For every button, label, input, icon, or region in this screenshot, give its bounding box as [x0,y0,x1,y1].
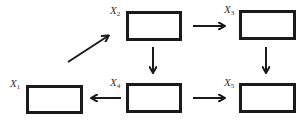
label-main: X [10,77,17,89]
label-main: X [224,76,231,88]
label-sub: 3 [231,9,235,17]
flow-diagram: X1 X2 X3 X4 X5 [0,0,306,125]
label-main: X [110,76,117,88]
node-label-x4: X4 [110,77,120,90]
label-sub: 4 [117,82,121,90]
node-label-x5: X5 [224,77,234,90]
node-label-x1: X1 [10,78,20,91]
node-x3 [239,10,296,40]
label-sub: 2 [117,10,121,18]
node-x5 [239,83,296,113]
label-sub: 5 [231,82,235,90]
node-label-x3: X3 [224,4,234,17]
node-x2 [126,11,182,41]
label-main: X [110,4,117,16]
label-sub: 1 [17,83,21,91]
node-x1 [26,85,83,114]
node-label-x2: X2 [110,5,120,18]
arrow-x1-to-x2 [68,36,108,62]
node-x4 [126,83,182,113]
label-main: X [224,3,231,15]
